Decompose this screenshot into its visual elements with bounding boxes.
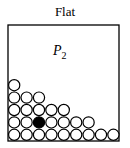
particle [33,92,44,103]
particle [9,80,20,91]
particle [21,92,32,103]
particle [46,104,57,115]
particle [83,117,94,128]
particle [71,129,82,140]
particle [83,129,94,140]
label-base: P [52,43,62,58]
particle [21,129,32,140]
particle [58,117,69,128]
pressure-label: P2 [52,43,67,61]
particle [9,117,20,128]
particle-group [9,80,119,141]
particle [33,129,44,140]
particle [46,129,57,140]
particle [46,117,57,128]
particle [58,129,69,140]
particle [108,129,119,140]
particle [58,104,69,115]
particle [9,92,20,103]
particle [71,117,82,128]
particle [21,104,32,115]
particle [9,104,20,115]
label-subscript: 2 [62,50,67,61]
marked-particle [33,117,44,128]
particle [9,129,20,140]
particle [95,129,106,140]
particle-pile-diagram: P2 [0,0,130,148]
particle [21,117,32,128]
particle [33,104,44,115]
